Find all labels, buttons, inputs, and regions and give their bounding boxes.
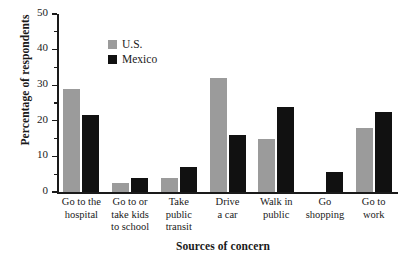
bar-mexico [277, 107, 294, 192]
y-tick-label: 20 [37, 113, 48, 125]
gray-swatch-icon [108, 40, 117, 49]
bar-mexico [82, 115, 99, 192]
category-label: Go towork [349, 196, 398, 234]
y-tick-label: 50 [37, 6, 48, 18]
y-tick-label: 0 [43, 184, 49, 196]
bar-group [252, 14, 301, 192]
legend-label-mexico: Mexico [122, 54, 157, 66]
bar-us [63, 89, 80, 192]
category-label: Drivea car [203, 196, 252, 234]
bar-mexico [180, 167, 197, 192]
bar-mexico [131, 178, 148, 192]
bar-group [301, 14, 350, 192]
bar-group [203, 14, 252, 192]
black-swatch-icon [108, 55, 117, 64]
y-tick-label: 30 [37, 77, 48, 89]
bar-us [161, 178, 178, 192]
legend-label-us: U.S. [122, 39, 142, 51]
x-axis-line [57, 192, 398, 194]
legend: U.S. Mexico [108, 39, 157, 68]
x-axis-category-labels: Go to thehospitalGo to ortake kidsto sch… [57, 196, 398, 234]
legend-item-mexico: Mexico [108, 54, 157, 66]
x-axis-title: Sources of concern [40, 240, 406, 252]
bar-us [258, 139, 275, 192]
bar-group [154, 14, 203, 192]
legend-item-us: U.S. [108, 39, 157, 51]
y-tick-label: 40 [37, 41, 48, 53]
bar-us [356, 128, 373, 192]
category-label: Go to thehospital [57, 196, 106, 234]
bar-us [112, 183, 129, 192]
bar-group [349, 14, 398, 192]
category-label: Goshopping [301, 196, 350, 234]
bar-chart: Percentage of respondents 01020304050 U.… [0, 0, 406, 261]
category-label: Takepublictransit [154, 196, 203, 234]
bar-group [57, 14, 106, 192]
bar-mexico [229, 135, 246, 192]
bar-mexico [375, 112, 392, 192]
y-axis-title: Percentage of respondents [19, 0, 31, 175]
category-label: Walk inpublic [252, 196, 301, 234]
bar-us [210, 78, 227, 192]
y-tick-label: 10 [37, 148, 48, 160]
bar-mexico [326, 172, 343, 192]
category-label: Go to ortake kidsto school [106, 196, 155, 234]
